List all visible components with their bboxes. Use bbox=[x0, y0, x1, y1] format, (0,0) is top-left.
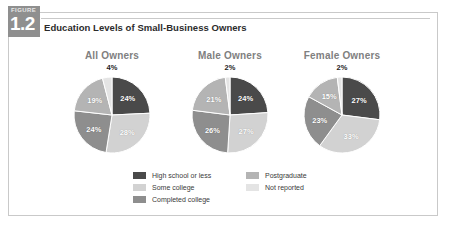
pie-slice-label: 19% bbox=[87, 96, 102, 105]
legend-item: Postgraduate bbox=[246, 170, 307, 181]
figure-container: FIGURE 1.2 Education Levels of Small-Bus… bbox=[0, 0, 450, 228]
legend-label: Not reported bbox=[265, 184, 304, 192]
pie-slice-label: 15% bbox=[322, 92, 337, 101]
legend-label: Some college bbox=[152, 184, 194, 192]
title-divider bbox=[41, 18, 430, 19]
legend-label: Completed college bbox=[152, 196, 210, 204]
pie-slice-label: 24% bbox=[86, 124, 101, 133]
pie-slice-label: 21% bbox=[206, 94, 221, 103]
pie-heading: Female Owners bbox=[282, 50, 402, 62]
legend-swatch-icon bbox=[133, 184, 146, 191]
title-band: Education Levels of Small-Business Owner… bbox=[41, 18, 430, 37]
pie-canvas: 27%33%23%15% bbox=[282, 73, 402, 157]
legend-item: Not reported bbox=[246, 182, 307, 193]
pie-chart-all-owners: All Owners4%24%28%24%19% bbox=[52, 50, 172, 157]
pie-slice-label: 27% bbox=[239, 127, 254, 136]
legend-item: Some college bbox=[133, 182, 211, 193]
legend-swatch-icon bbox=[133, 196, 146, 203]
legend-column-left: High school or lessSome collegeCompleted… bbox=[133, 170, 211, 206]
pie-top-label: 4% bbox=[52, 63, 172, 72]
pie-top-label: 2% bbox=[282, 63, 402, 72]
figure-title: Education Levels of Small-Business Owner… bbox=[44, 22, 247, 33]
pie-canvas: 24%28%24%19% bbox=[52, 73, 172, 157]
legend-label: Postgraduate bbox=[265, 172, 307, 180]
legend-label: High school or less bbox=[152, 172, 211, 180]
legend-swatch-icon bbox=[246, 172, 259, 179]
legend-swatch-icon bbox=[246, 184, 259, 191]
legend-swatch-icon bbox=[133, 172, 146, 179]
pie-slice-label: 27% bbox=[352, 95, 367, 104]
pie-canvas: 24%27%26%21% bbox=[170, 73, 290, 157]
pie-heading: All Owners bbox=[52, 50, 172, 62]
legend-column-right: PostgraduateNot reported bbox=[246, 170, 307, 194]
legend-item: Completed college bbox=[133, 194, 211, 205]
figure-number-tab: FIGURE 1.2 bbox=[8, 6, 40, 37]
pie-chart-male-owners: Male Owners2%24%27%26%21% bbox=[170, 50, 290, 157]
pie-chart-female-owners: Female Owners2%27%33%23%15% bbox=[282, 50, 402, 157]
pie-slice-label: 23% bbox=[312, 115, 327, 124]
pie-slice-label: 24% bbox=[120, 94, 135, 103]
legend-item: High school or less bbox=[133, 170, 211, 181]
chart-legend: High school or lessSome collegeCompleted… bbox=[133, 170, 363, 204]
pie-slice-label: 33% bbox=[344, 131, 359, 140]
pie-slice-label: 26% bbox=[205, 125, 220, 134]
figure-tab-number: 1.2 bbox=[10, 13, 35, 34]
pie-slice-label: 24% bbox=[238, 94, 253, 103]
pie-top-label: 2% bbox=[170, 63, 290, 72]
pie-heading: Male Owners bbox=[170, 50, 290, 62]
pie-slice-label: 28% bbox=[120, 127, 135, 136]
